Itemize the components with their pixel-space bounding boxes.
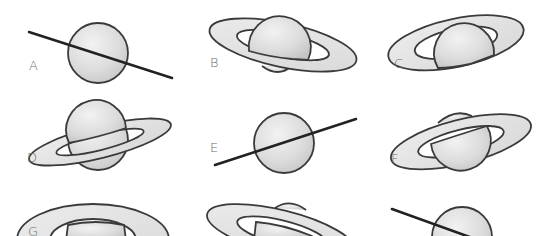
panel-d: D [25, 100, 174, 175]
saturn-ring-diagram: A B C D E F [0, 0, 545, 236]
panel-label-f: F [391, 151, 398, 166]
panel-label-d: D [27, 150, 37, 165]
panel-f: F [386, 103, 536, 181]
panel-i [392, 207, 492, 236]
panel-e: E [210, 113, 356, 173]
panel-label-a: A [29, 58, 38, 73]
planet-body [432, 207, 492, 236]
panel-c: C [383, 5, 528, 81]
panel-h [202, 193, 360, 236]
panel-label-b: B [210, 55, 219, 70]
panel-label-g: G [28, 224, 38, 236]
panel-label-c: C [394, 56, 403, 71]
panel-a: A [29, 23, 172, 83]
panel-g: G [17, 204, 169, 236]
panel-label-e: E [210, 140, 218, 155]
planet-body [66, 222, 126, 236]
panel-b: B [205, 8, 361, 82]
